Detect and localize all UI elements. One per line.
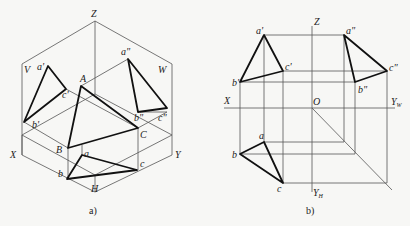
label-c-prime: c': [285, 61, 292, 72]
label-a: a: [259, 130, 264, 141]
label-b: b: [58, 168, 63, 179]
label-b-prime: b': [32, 119, 40, 130]
label-a-dprime: a": [121, 46, 131, 57]
caption-a: a): [89, 205, 97, 217]
triangle-space-ABC: [68, 86, 138, 148]
label-X: X: [9, 149, 17, 160]
label-c-prime: c': [62, 89, 69, 100]
label-C: C: [140, 129, 147, 140]
projector-A-a2: [81, 59, 128, 86]
label-b-dprime: b": [134, 112, 144, 123]
label-A: A: [79, 73, 87, 84]
label-b: b: [232, 149, 237, 160]
label-c: c: [277, 183, 282, 194]
label-a-prime: a': [37, 61, 45, 72]
label-a-dprime: a": [346, 25, 356, 36]
figure-b-orthographic: Z X O YW YH a' b' c' a" b" c" a b c b): [223, 16, 403, 217]
label-Y: Y: [175, 149, 182, 160]
mitre-line: [312, 108, 392, 190]
label-a: a: [84, 148, 89, 159]
triangle-front-view: [240, 35, 283, 82]
label-a-prime: a': [256, 25, 264, 36]
label-W: W: [158, 64, 168, 75]
label-X: X: [223, 95, 231, 106]
triangle-top-view: [240, 142, 283, 183]
triangle-side-view: [344, 35, 387, 82]
label-YW: YW: [391, 96, 403, 108]
projection-diagram: Z V W X Y H A B C a' b' c' a" b" c" a b …: [0, 0, 410, 226]
label-b-dprime: b": [358, 84, 368, 95]
label-O: O: [313, 96, 320, 107]
figure-a-isometric: Z V W X Y H A B C a' b' c' a" b" c" a b …: [9, 8, 182, 217]
label-c-dprime: c": [389, 62, 398, 73]
caption-b: b): [306, 205, 314, 217]
label-B: B: [56, 144, 62, 155]
label-Z: Z: [91, 8, 97, 19]
label-V: V: [24, 64, 32, 75]
label-Z: Z: [314, 16, 320, 27]
label-b-prime: b': [232, 77, 240, 88]
label-c-dprime: c": [158, 112, 167, 123]
label-c: c: [140, 158, 145, 169]
label-YH: YH: [313, 187, 324, 199]
label-H: H: [90, 183, 99, 194]
